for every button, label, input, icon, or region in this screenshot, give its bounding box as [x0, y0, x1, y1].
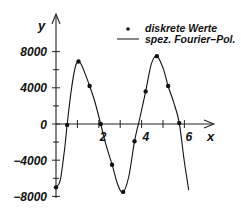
y-tick-label: 4000 — [19, 81, 47, 95]
data-point — [166, 84, 170, 88]
fourier-chart: 800040000−4000−8000 246 y x diskrete Wer… — [0, 0, 241, 213]
data-point — [76, 59, 80, 63]
data-point — [54, 185, 58, 189]
data-point — [110, 163, 114, 167]
data-point — [132, 139, 136, 143]
y-axis-ticks: 800040000−4000−8000 — [13, 45, 60, 204]
legend-dot-icon — [126, 27, 130, 31]
y-tick-label: −8000 — [13, 190, 47, 204]
x-tick-label: 4 — [142, 130, 150, 144]
y-tick-label: 8000 — [20, 45, 47, 59]
legend-label-fourier: spez. Fourier–Pol. — [145, 33, 236, 45]
x-axis-title: x — [206, 129, 215, 144]
data-point — [177, 121, 181, 125]
data-point — [143, 89, 147, 93]
data-point — [155, 54, 159, 58]
y-axis-title: y — [37, 18, 46, 33]
y-tick-label: −4000 — [13, 154, 47, 168]
data-point — [87, 84, 91, 88]
legend: diskrete Werte spez. Fourier–Pol. — [117, 22, 236, 45]
y-tick-label: 0 — [40, 118, 47, 132]
data-point — [121, 190, 125, 194]
data-point — [99, 122, 103, 126]
data-point — [65, 123, 69, 127]
x-tick-label: 6 — [185, 130, 192, 144]
